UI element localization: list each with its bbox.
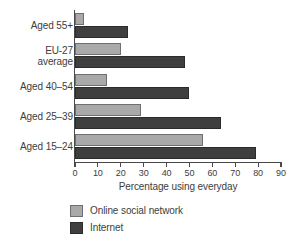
bar-internet	[75, 87, 189, 99]
x-axis-tick-label: 50	[185, 168, 195, 178]
bar-internet	[75, 56, 185, 68]
x-axis-tick	[280, 163, 281, 167]
legend-item-internet: Internet	[70, 219, 183, 236]
x-axis-tick	[189, 163, 190, 167]
x-axis-tick	[258, 163, 259, 167]
x-axis-tick	[120, 163, 121, 167]
bar-online-social-network	[75, 134, 203, 146]
legend-swatch-internet	[70, 222, 83, 234]
chart-legend: Online social network Internet	[70, 202, 183, 236]
x-axis-tick-label: 80	[253, 168, 263, 178]
bar-online-social-network	[75, 13, 84, 25]
x-axis-tick-label: 30	[139, 168, 149, 178]
legend-item-online-social-network: Online social network	[70, 202, 183, 219]
x-axis-tick	[166, 163, 167, 167]
x-axis-tick-label: 90	[276, 168, 286, 178]
bar-online-social-network	[75, 43, 121, 55]
x-axis-tick	[74, 163, 75, 167]
bar-internet	[75, 26, 128, 38]
legend-label-online-social-network: Online social network	[90, 205, 183, 216]
category-label: Aged 15–24	[20, 141, 73, 152]
x-axis-tick-label: 70	[230, 168, 240, 178]
x-axis-tick	[97, 163, 98, 167]
x-axis-tick-label: 0	[73, 168, 78, 178]
x-axis-tick-label: 60	[207, 168, 217, 178]
x-axis-tick	[235, 163, 236, 167]
bar-online-social-network	[75, 104, 141, 116]
bar-internet	[75, 147, 256, 159]
category-label: EU-27 average	[38, 45, 73, 67]
category-label: Aged 40–54	[20, 81, 73, 92]
legend-swatch-online-social-network	[70, 205, 83, 217]
x-axis-line	[74, 162, 282, 163]
bar-online-social-network	[75, 74, 107, 86]
x-axis-tick-label: 20	[116, 168, 126, 178]
x-axis-tick-label: 40	[162, 168, 172, 178]
x-axis-title: Percentage using everyday	[75, 181, 281, 192]
x-axis-tick-label: 10	[93, 168, 103, 178]
bar-internet	[75, 117, 221, 129]
x-axis-tick	[143, 163, 144, 167]
legend-label-internet: Internet	[90, 222, 123, 233]
x-axis-tick	[212, 163, 213, 167]
category-label: Aged 55+	[31, 20, 73, 31]
category-label: Aged 25–39	[20, 111, 73, 122]
bar-chart: 0102030405060708090Aged 55+EU-27 average…	[0, 0, 292, 252]
